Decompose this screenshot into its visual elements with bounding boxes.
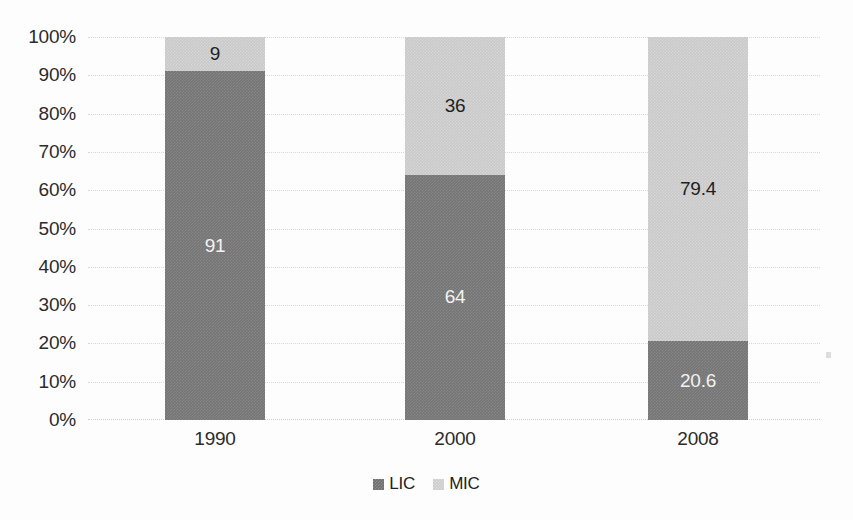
x-tick-label-1990: 1990 — [145, 428, 285, 450]
stacked-bar-chart: 100% 90% 80% 70% 60% 50% 40% 30% 20% 10%… — [0, 0, 853, 520]
y-tick-label: 10% — [0, 371, 76, 393]
scan-artifact-speck — [826, 352, 831, 358]
y-axis: 100% 90% 80% 70% 60% 50% 40% 30% 20% 10%… — [0, 37, 76, 420]
legend-item-mic[interactable]: MIC — [433, 474, 480, 494]
legend-label-mic: MIC — [449, 474, 480, 494]
y-tick-label: 20% — [0, 332, 76, 354]
y-tick-label: 0% — [0, 409, 76, 431]
bar-value-label: 20.6 — [680, 370, 716, 392]
y-tick-label: 100% — [0, 26, 76, 48]
bar-value-label: 79.4 — [680, 178, 716, 200]
bar-value-label: 36 — [445, 95, 466, 117]
bar-segment-mic[interactable]: 9 — [165, 37, 265, 71]
bar-segment-mic[interactable]: 36 — [405, 37, 505, 175]
plot-area: 9 91 36 64 79.4 20.6 — [88, 37, 820, 420]
lic-swatch-icon — [373, 479, 384, 490]
y-tick-label: 30% — [0, 294, 76, 316]
y-tick-label: 50% — [0, 218, 76, 240]
y-tick-label: 40% — [0, 256, 76, 278]
x-tick-label-2000: 2000 — [385, 428, 525, 450]
legend-item-lic[interactable]: LIC — [373, 474, 415, 494]
bar-segment-lic[interactable]: 20.6 — [648, 341, 748, 420]
y-tick-label: 90% — [0, 64, 76, 86]
y-tick-label: 80% — [0, 103, 76, 125]
bar-segment-lic[interactable]: 91 — [165, 71, 265, 420]
chart-legend: LIC MIC — [0, 474, 853, 494]
bar-value-label: 9 — [210, 43, 220, 65]
bar-segment-mic[interactable]: 79.4 — [648, 37, 748, 341]
x-tick-label-2008: 2008 — [628, 428, 768, 450]
x-axis: 1990 2000 2008 — [88, 428, 820, 462]
mic-swatch-icon — [433, 479, 444, 490]
legend-label-lic: LIC — [389, 474, 415, 494]
bar-group-1990[interactable]: 9 91 — [165, 37, 265, 420]
bar-segment-lic[interactable]: 64 — [405, 175, 505, 420]
y-tick-label: 70% — [0, 141, 76, 163]
y-tick-label: 60% — [0, 179, 76, 201]
bar-group-2008[interactable]: 79.4 20.6 — [648, 37, 748, 420]
bar-group-2000[interactable]: 36 64 — [405, 37, 505, 420]
bar-value-label: 64 — [445, 286, 466, 308]
bar-value-label: 91 — [205, 235, 226, 257]
